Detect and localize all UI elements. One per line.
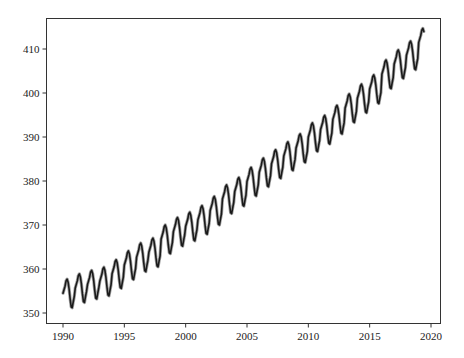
x-tick-label: 1995 bbox=[113, 330, 136, 342]
co2-line-chart: 350360370380390400410 199019952000200520… bbox=[0, 0, 464, 358]
y-tick-label: 360 bbox=[23, 263, 40, 275]
x-tick-label: 2020 bbox=[420, 330, 443, 342]
x-axis: 1990199520002005201020152020 bbox=[52, 324, 443, 342]
x-tick-label: 2010 bbox=[297, 330, 320, 342]
x-tick-label: 2000 bbox=[175, 330, 198, 342]
y-tick-label: 380 bbox=[23, 175, 40, 187]
y-tick-label: 400 bbox=[23, 87, 40, 99]
y-tick-label: 370 bbox=[23, 219, 40, 231]
x-tick-label: 1990 bbox=[52, 330, 75, 342]
x-tick-label: 2005 bbox=[236, 330, 259, 342]
x-tick-label: 2015 bbox=[359, 330, 382, 342]
y-tick-label: 350 bbox=[23, 307, 40, 319]
y-tick-label: 390 bbox=[23, 131, 40, 143]
y-tick-label: 410 bbox=[23, 43, 40, 55]
y-axis: 350360370380390400410 bbox=[23, 43, 47, 319]
